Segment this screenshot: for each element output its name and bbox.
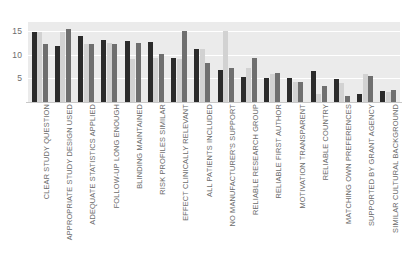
bar <box>148 42 153 102</box>
bar <box>339 83 344 102</box>
x-tick-label: BLINDING MAINTAINED <box>136 104 144 189</box>
bar <box>270 74 275 102</box>
bar <box>246 68 251 102</box>
bar <box>159 54 164 102</box>
bar-group <box>191 22 214 102</box>
bar-group <box>354 22 377 102</box>
y-tick-label: 5 <box>17 73 22 83</box>
bar <box>391 90 396 102</box>
bar <box>112 44 117 102</box>
bar <box>84 44 89 102</box>
bar-group <box>168 22 191 102</box>
x-tick-label: RELIABLE COUNTRY <box>322 104 330 180</box>
bar <box>125 41 130 102</box>
bar <box>363 74 368 102</box>
bar <box>311 71 316 102</box>
bar-chart: 51015 CLEAR STUDY QUESTIONAPPROPRIATE ST… <box>0 0 404 269</box>
x-tick-label: ADEQUATE STATISTICS APPLIED <box>89 104 97 225</box>
bar <box>200 49 205 102</box>
y-tick-label: 10 <box>12 50 22 60</box>
bar <box>241 77 246 102</box>
bar <box>194 49 199 102</box>
bar <box>205 63 210 102</box>
bar <box>153 58 158 102</box>
bar <box>334 79 339 102</box>
x-tick-label: ALL PATIENTS INCLUDED <box>206 104 214 197</box>
x-tick-label: NO MANUFACTURER'S SUPPORT <box>229 104 237 226</box>
x-tick-label: EFFECT CLINICALLY RELEVANT <box>182 104 190 221</box>
bar <box>78 36 83 102</box>
bar <box>177 59 182 102</box>
bar-group <box>237 22 260 102</box>
bar <box>182 31 187 102</box>
bar <box>316 94 321 102</box>
bar <box>60 32 65 102</box>
bar-group <box>75 22 98 102</box>
bar <box>37 32 42 102</box>
bar <box>136 43 141 102</box>
bar <box>264 78 269 102</box>
bar <box>171 58 176 102</box>
x-tick-label: CLEAR STUDY QUESTION <box>43 104 51 199</box>
bar-group <box>284 22 307 102</box>
bar <box>368 76 373 102</box>
bar <box>357 94 362 102</box>
bar <box>55 46 60 102</box>
bar <box>107 43 112 102</box>
bar <box>223 31 228 102</box>
x-tick-label: FOLLOW-UP LONG ENOUGH <box>113 104 121 208</box>
bar <box>293 82 298 102</box>
bar <box>229 68 234 102</box>
x-tick-label: RISK PROFILES SIMILAR <box>159 104 167 195</box>
bar <box>130 59 135 102</box>
bar <box>252 58 257 102</box>
bar <box>66 29 71 102</box>
bar-group <box>28 22 51 102</box>
y-tick-label: 15 <box>12 26 22 36</box>
bar <box>275 73 280 102</box>
x-tick-label: MATCHING OWN PREFERENCES <box>345 104 353 224</box>
bar <box>380 91 385 102</box>
bar-group <box>121 22 144 102</box>
bar <box>32 32 37 102</box>
bar <box>218 70 223 102</box>
bar <box>386 92 391 102</box>
bar-group <box>98 22 121 102</box>
bar-group <box>330 22 353 102</box>
bar-group <box>307 22 330 102</box>
bar <box>345 96 350 102</box>
x-tick-label: RELIABLE FIRST AUTHOR <box>275 104 283 199</box>
bar <box>322 86 327 102</box>
bar <box>287 78 292 102</box>
x-tick-label: SIMILAR CULTURAL BACKGROUND <box>392 104 400 233</box>
bar-group <box>214 22 237 102</box>
y-axis: 51015 <box>0 22 26 102</box>
bar-group <box>261 22 284 102</box>
bar <box>298 82 303 102</box>
bar-group <box>377 22 400 102</box>
bar <box>101 40 106 102</box>
x-tick-label: MOTIVATION TRANSPARENT <box>299 104 307 209</box>
x-axis: CLEAR STUDY QUESTIONAPPROPRIATE STUDY DE… <box>28 104 400 269</box>
bar <box>43 44 48 102</box>
x-tick-label: RELIABLE RESEARCH GROUP <box>252 104 260 215</box>
x-tick-label: APPROPRIATE STUDY DESIGN USED <box>66 104 74 240</box>
bar <box>89 44 94 102</box>
bars-layer <box>28 22 400 102</box>
bar-group <box>51 22 74 102</box>
x-tick-label: SUPPORTED BY GRANT AGENCY <box>368 104 376 226</box>
bar-group <box>144 22 167 102</box>
x-axis-line <box>26 102 402 103</box>
